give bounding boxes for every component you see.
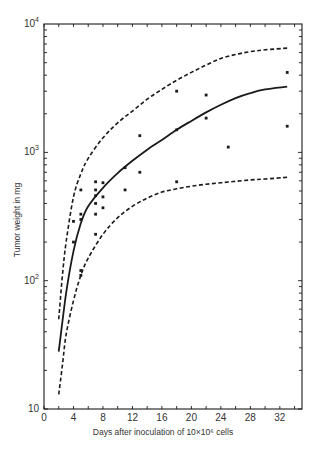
data-point (205, 94, 208, 97)
upper-limit-curve (59, 48, 288, 319)
data-point (205, 117, 208, 120)
x-tick-label: 8 (100, 412, 106, 423)
data-point (175, 128, 178, 131)
x-tick-label: 0 (41, 412, 47, 423)
data-point (286, 125, 289, 128)
data-point (72, 241, 75, 244)
x-tick-label: 28 (245, 412, 257, 423)
data-point (79, 189, 82, 192)
x-tick-label: 32 (274, 412, 286, 423)
growth-curves (59, 48, 288, 394)
data-point (102, 181, 105, 184)
y-tick-label: 104 (24, 16, 39, 29)
data-point (175, 90, 178, 93)
x-axis-ticks: 048121620242832 (41, 24, 294, 423)
data-point (94, 202, 97, 205)
x-axis-title: Days after inoculation of 10×10⁶ cells (93, 427, 233, 437)
data-point (79, 218, 82, 221)
y-tick-exponent: 2 (35, 273, 39, 280)
y-tick-label: 102 (24, 273, 39, 286)
data-point (175, 180, 178, 183)
y-tick-exponent: 4 (35, 16, 39, 23)
data-point (94, 213, 97, 216)
data-point (286, 71, 289, 74)
data-point (138, 134, 141, 137)
data-point (79, 274, 82, 277)
data-point (94, 189, 97, 192)
y-axis-title: Tumor weight in mg (12, 183, 22, 258)
data-point (94, 194, 97, 197)
tumor-growth-chart: 10102103104 048121620242832 Tumor weight… (0, 0, 318, 454)
data-point (79, 269, 82, 272)
x-tick-label: 24 (215, 412, 227, 423)
lower-limit-curve (59, 177, 288, 394)
data-point (102, 195, 105, 198)
x-tick-label: 12 (127, 412, 139, 423)
data-point (94, 180, 97, 183)
y-tick-label: 103 (24, 144, 39, 157)
y-tick-exponent: 3 (35, 144, 39, 151)
y-axis-ticks: 10102103104 (24, 16, 302, 414)
data-point (124, 166, 127, 169)
x-tick-label: 16 (156, 412, 168, 423)
data-point (138, 171, 141, 174)
data-points (72, 71, 289, 277)
data-point (124, 189, 127, 192)
y-tick-label: 10 (28, 403, 40, 414)
data-point (227, 146, 230, 149)
data-point (102, 206, 105, 209)
data-point (94, 233, 97, 236)
mean-curve (59, 87, 288, 352)
x-tick-label: 4 (71, 412, 77, 423)
x-tick-label: 20 (186, 412, 198, 423)
data-point (72, 220, 75, 223)
data-point (79, 213, 82, 216)
